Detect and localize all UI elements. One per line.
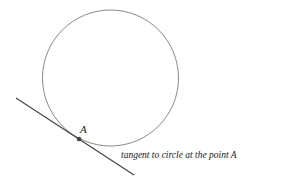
diagram-canvas: A tangent to circle at the point A xyxy=(0,0,281,186)
point-a-label: A xyxy=(79,123,87,135)
tangent-caption: tangent to circle at the point A xyxy=(121,150,237,160)
circle xyxy=(43,10,179,146)
tangent-line xyxy=(16,98,134,175)
point-a-dot xyxy=(77,137,82,142)
tangent-diagram: A tangent to circle at the point A xyxy=(0,0,281,186)
